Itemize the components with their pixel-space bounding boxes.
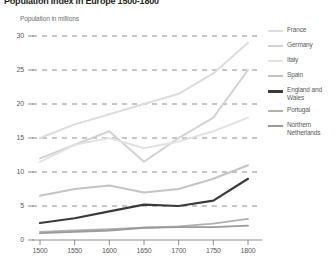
legend-item[interactable]: Germany xyxy=(268,41,336,52)
x-axis-tick-label: 1700 xyxy=(164,247,194,254)
y-axis-tick-label: 30 xyxy=(2,32,24,39)
line-chart-svg xyxy=(0,0,265,250)
y-axis-tick-label: 20 xyxy=(2,100,24,107)
plot-area xyxy=(0,0,265,250)
series-line-spain xyxy=(40,165,248,196)
y-axis-tick-label: 5 xyxy=(2,202,24,209)
series-line-northern-netherlands xyxy=(40,226,248,233)
legend-swatch-icon xyxy=(268,90,283,93)
legend-item-label: Portugal xyxy=(287,106,310,114)
legend-item[interactable]: Italy xyxy=(268,56,336,67)
y-axis-tick-label: 10 xyxy=(2,168,24,175)
legend-item-label: England and Wales xyxy=(287,86,336,102)
legend-swatch-icon xyxy=(268,45,283,47)
y-axis-tick-label: 0 xyxy=(2,236,24,243)
x-axis-tick-label: 1500 xyxy=(25,247,55,254)
legend-item-label: Germany xyxy=(287,41,313,49)
legend-item[interactable]: Northern Netherlands xyxy=(268,121,336,137)
x-axis-tick-label: 1650 xyxy=(129,247,159,254)
legend-item-label: Northern Netherlands xyxy=(287,121,336,137)
series-line-portugal xyxy=(40,219,248,232)
legend-swatch-icon xyxy=(268,30,283,32)
legend-swatch-icon xyxy=(268,75,283,77)
x-axis-tick-label: 1600 xyxy=(94,247,124,254)
series-line-italy xyxy=(40,118,248,162)
legend-item-label: France xyxy=(287,26,306,34)
x-axis-tick-label: 1550 xyxy=(60,247,90,254)
legend-item[interactable]: France xyxy=(268,26,336,37)
x-axis-tick-label: 1800 xyxy=(233,247,263,254)
legend-swatch-icon xyxy=(268,110,283,112)
legend-swatch-icon xyxy=(268,60,283,62)
legend-swatch-icon xyxy=(268,125,283,127)
chart-container: Population Index in Europe 1500-1800 Pop… xyxy=(0,0,336,275)
y-axis-tick-label: 15 xyxy=(2,134,24,141)
y-axis-tick-label: 25 xyxy=(2,66,24,73)
series-line-england-and-wales xyxy=(40,179,248,223)
legend-item-label: Spain xyxy=(287,71,303,79)
legend-item[interactable]: Portugal xyxy=(268,106,336,117)
legend-item-label: Italy xyxy=(287,56,298,64)
series-line-france xyxy=(40,43,248,138)
chart-legend: FranceGermanyItalySpainEngland and Wales… xyxy=(268,26,336,141)
legend-item[interactable]: Spain xyxy=(268,71,336,82)
x-axis-tick-label: 1750 xyxy=(198,247,228,254)
legend-item[interactable]: England and Wales xyxy=(268,86,336,102)
